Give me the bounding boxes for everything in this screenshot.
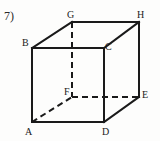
vertex-label-E: E — [142, 90, 148, 100]
vertex-label-B: B — [22, 38, 29, 48]
vertex-label-F: F — [64, 87, 70, 97]
edge-B-G — [32, 22, 72, 48]
vertex-label-D: D — [102, 127, 109, 137]
cube-solid-edges — [32, 22, 139, 122]
figure-canvas: 7) G H B C F E A D — [0, 0, 160, 141]
vertex-label-H: H — [137, 10, 144, 20]
cube-diagram — [0, 0, 160, 141]
vertex-label-C: C — [105, 42, 112, 52]
edge-A-F — [32, 97, 72, 122]
vertex-label-G: G — [67, 10, 74, 20]
edge-D-E — [104, 97, 139, 122]
vertex-label-A: A — [25, 127, 32, 137]
